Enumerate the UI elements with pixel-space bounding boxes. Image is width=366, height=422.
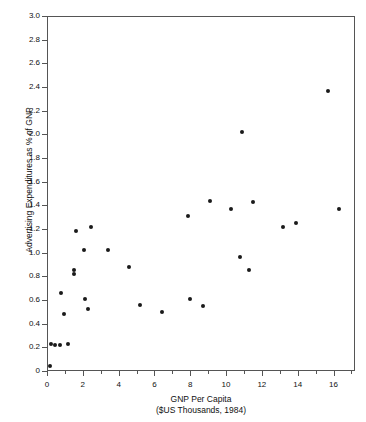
y-axis-tick-label: 1.6 <box>0 178 40 186</box>
y-axis-tick <box>42 253 47 254</box>
x-axis-tick-label: 16 <box>320 379 348 390</box>
y-axis-tick-label: 1.2 <box>0 225 40 233</box>
y-axis-tick-label: 0.4 <box>0 320 40 328</box>
y-axis-tick-label: 3.0 <box>0 12 40 20</box>
x-axis-tick <box>119 371 120 376</box>
y-axis-tick <box>42 324 47 325</box>
y-axis-tick-label: 2.4 <box>0 83 40 91</box>
x-axis-title-sub: ($US Thousands, 1984) <box>47 405 355 416</box>
y-axis-tick-label: 2.2 <box>0 107 40 115</box>
x-axis-minor-tick <box>316 371 317 374</box>
y-axis-tick <box>42 229 47 230</box>
y-axis-tick-label: 2.6 <box>0 59 40 67</box>
x-axis-tick-label: 2 <box>69 379 97 390</box>
x-axis-tick <box>190 371 191 376</box>
x-axis-tick <box>226 371 227 376</box>
x-axis-minor-tick <box>244 371 245 374</box>
y-axis-tick <box>42 158 47 159</box>
scatter-plot-figure: 00.20.40.60.81.01.21.41.61.82.02.22.42.6… <box>0 0 366 422</box>
x-axis-minor-tick <box>65 371 66 374</box>
y-axis-tick-label: 0.2 <box>0 343 40 351</box>
y-axis-tick-label: 0 <box>0 367 40 375</box>
x-axis-tick <box>47 371 48 376</box>
y-axis-tick <box>42 276 47 277</box>
x-axis-tick-label: 6 <box>140 379 168 390</box>
y-axis-tick-label: 1.8 <box>0 154 40 162</box>
y-axis-tick <box>42 182 47 183</box>
plot-frame <box>47 16 355 371</box>
x-axis-minor-tick <box>172 371 173 374</box>
y-axis-tick <box>42 111 47 112</box>
x-axis-tick-label: 4 <box>105 379 133 390</box>
y-axis-tick-label: 1.0 <box>0 249 40 257</box>
y-axis-tick-label: 1.4 <box>0 201 40 209</box>
x-axis-minor-tick <box>101 371 102 374</box>
x-axis-tick <box>154 371 155 376</box>
y-axis-title: Advertising Expenditures as % of GNP <box>24 55 34 305</box>
y-axis-tick-label: 2.0 <box>0 130 40 138</box>
y-axis-tick <box>42 87 47 88</box>
y-axis-tick <box>42 347 47 348</box>
y-axis-tick-label: 0.6 <box>0 296 40 304</box>
x-axis-tick <box>298 371 299 376</box>
x-axis-title: GNP Per Capita ($US Thousands, 1984) <box>47 394 355 416</box>
x-axis-title-main: GNP Per Capita <box>47 394 355 405</box>
x-axis-tick <box>334 371 335 376</box>
y-axis-tick <box>42 16 47 17</box>
y-axis-tick <box>42 205 47 206</box>
x-axis-tick <box>83 371 84 376</box>
x-axis-minor-tick <box>137 371 138 374</box>
y-axis-tick-label: 2.8 <box>0 36 40 44</box>
x-axis-tick-label: 14 <box>284 379 312 390</box>
y-axis-tick <box>42 40 47 41</box>
x-axis-tick-label: 8 <box>176 379 204 390</box>
x-axis-tick-label: 0 <box>33 379 61 390</box>
x-axis-minor-tick <box>280 371 281 374</box>
x-axis-tick <box>262 371 263 376</box>
y-axis-tick-label: 0.8 <box>0 272 40 280</box>
x-axis-minor-tick <box>351 371 352 374</box>
x-axis-tick-label: 12 <box>248 379 276 390</box>
x-axis-minor-tick <box>208 371 209 374</box>
y-axis-tick <box>42 134 47 135</box>
y-axis-tick <box>42 300 47 301</box>
x-axis-tick-label: 10 <box>212 379 240 390</box>
y-axis-tick <box>42 63 47 64</box>
